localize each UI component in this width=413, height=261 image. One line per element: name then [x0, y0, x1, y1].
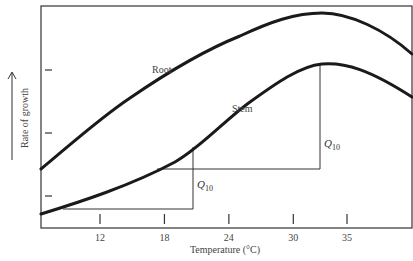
x-axis-label: Temperature (°C) — [190, 244, 260, 256]
root-label: Root — [152, 64, 172, 75]
stem-label: Stem — [232, 103, 253, 114]
x-tick-label: 30 — [288, 232, 298, 243]
q10-brackets: Q10Q10 — [63, 64, 340, 209]
series-line-root — [41, 13, 412, 169]
x-tick-label: 12 — [95, 232, 105, 243]
q10-label: Q10 — [197, 178, 213, 193]
y-axis-label: Rate of growth — [19, 88, 30, 148]
q10-label: Q10 — [324, 137, 340, 152]
x-tick-label: 35 — [342, 232, 352, 243]
growth-rate-chart: Rate of growth Temperature (°C) 12182430… — [0, 0, 413, 261]
y-axis-arrow-icon — [8, 72, 16, 160]
y-ticks — [45, 70, 52, 196]
x-tick-label: 18 — [159, 232, 169, 243]
series-lines — [41, 13, 412, 214]
annotations: RootStem — [152, 64, 253, 114]
x-tick-label: 24 — [224, 232, 234, 243]
series-line-stem — [41, 64, 412, 214]
